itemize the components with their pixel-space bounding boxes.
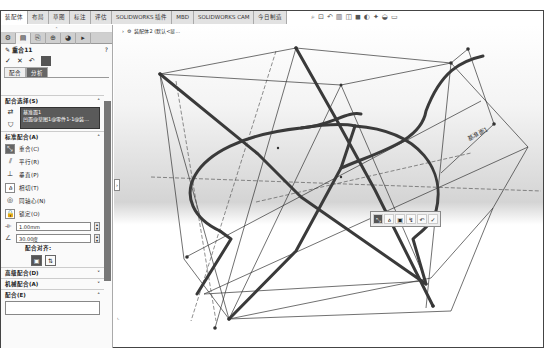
chevron-up-icon: ˄ — [97, 134, 100, 140]
mates-header[interactable]: 配合(E)˄ — [1, 289, 104, 300]
tab-layout[interactable]: 布局 — [28, 11, 49, 24]
tab-cam[interactable]: SOLIDWORKS CAM — [194, 11, 255, 24]
distance-icon: ⟛ — [5, 222, 13, 230]
view-orientation-icon[interactable]: ◫ — [345, 13, 352, 21]
property-title-row: ✎ 重合11 ? — [1, 44, 112, 55]
multi-mate-icon[interactable]: ⛉ — [5, 120, 16, 130]
undo-button[interactable]: ↶ — [29, 57, 35, 65]
mate-selections-header[interactable]: 配合选择(S)˄ — [1, 95, 104, 106]
context-toolbar: ⤡ ዕ ▣ ↯ ↶ ✓ — [370, 211, 441, 227]
display-style-icon[interactable]: ◼ — [355, 13, 361, 21]
solidworks-window: 装配体 布局 草图 标注 评估 SOLIDWORKS 插件 MBD SOLIDW… — [0, 10, 544, 348]
panel-scroll-area: 配合选择(S)˄ ⇄ ⛉ 基准面1 凹面@草图1@零件1-1@装... 标准配合… — [1, 95, 104, 348]
mate-alignment-buttons: ▣ ⇅ — [1, 253, 104, 267]
scene-icon[interactable]: ◒ — [382, 13, 388, 21]
ok-button[interactable]: ✓ — [428, 214, 438, 224]
graphics-area[interactable]: › ⚙ 装配体2 (默认<显... — [114, 25, 543, 347]
tab-addins[interactable]: SOLIDWORKS 插件 — [112, 11, 172, 24]
standard-mates-header[interactable]: 标准配合(A)˄ — [1, 131, 104, 142]
selection-filter-icon[interactable]: ⇄ — [5, 107, 16, 117]
mate-parallel[interactable]: ⫽ 平行(R) — [1, 155, 104, 168]
tab-mbd[interactable]: MBD — [172, 11, 194, 24]
angle-icon: ∠ — [5, 234, 13, 242]
perpendicular-icon: ⊥ — [5, 170, 15, 180]
aligned-button[interactable]: ▣ — [31, 255, 42, 266]
distance-input[interactable]: 1.00mm — [16, 222, 91, 231]
mates-list-box[interactable] — [5, 301, 100, 315]
mate-selections-row: ⇄ ⛉ 基准面1 凹面@草图1@零件1-1@装... — [1, 106, 104, 131]
mate-coincident[interactable]: ⤡ 重合(C) — [1, 142, 104, 155]
distance-spinner[interactable]: ▴▾ — [94, 222, 100, 231]
cancel-button[interactable]: ✕ — [17, 57, 23, 65]
plane-label[interactable]: 基准面1 — [466, 125, 489, 142]
manager-tabs: ⚙ ▤ ⎘ ⊕ ◕ ▸ — [1, 33, 112, 44]
concentric-icon: ◎ — [5, 196, 15, 206]
property-manager-tab[interactable]: ▤ — [16, 33, 31, 44]
command-manager-tabs: 装配体 布局 草图 标注 评估 SOLIDWORKS 插件 MBD SOLIDW… — [1, 11, 287, 24]
mate-alignment-label: 配合对齐: — [1, 244, 104, 253]
heads-up-view-toolbar: ⌕ ⊡ ↶ ▥ ◫ ◼ ◐ ✦ ◒ ▭ — [311, 13, 398, 21]
mate-perpendicular[interactable]: ⊥ 垂直(P) — [1, 168, 104, 181]
angle-spinner[interactable]: ▴▾ — [94, 234, 100, 243]
distance-row: ⟛ 1.00mm ▴▾ — [1, 220, 104, 232]
tab-assembly[interactable]: 装配体 — [1, 11, 28, 24]
lock-icon: 🔒 — [5, 209, 15, 219]
more-tabs-arrow[interactable]: ▸ — [76, 33, 91, 44]
feature-manager-tab[interactable]: ⚙ — [1, 33, 16, 44]
flip-alignment-button[interactable]: ↯ — [406, 214, 416, 224]
tab-manufacturing[interactable]: 今日制造 — [254, 11, 287, 24]
collapse-toggle[interactable]: ˄ — [1, 25, 112, 33]
angle-row: ∠ 30.00度 ▴▾ — [1, 232, 104, 244]
selection-item[interactable]: 凹面@草图1@零件1-1@装... — [23, 116, 97, 122]
undo-button[interactable]: ↶ — [417, 214, 427, 224]
action-buttons: ✓ ✕ ↶ — [1, 55, 112, 66]
mate-concentric[interactable]: ◎ 同轴心(N) — [1, 194, 104, 207]
section-view-icon[interactable]: ▥ — [336, 13, 343, 21]
mate-lock[interactable]: 🔒 锁定(O) — [1, 207, 104, 220]
entities-to-mate-list[interactable]: 基准面1 凹面@草图1@零件1-1@装... — [20, 107, 100, 129]
advanced-mates-header[interactable]: 高级配合(D)˅ — [1, 267, 104, 278]
reference-triad-icon: ⌞ — [117, 314, 119, 320]
mechanical-mates-header[interactable]: 机械配合(A)˅ — [1, 278, 104, 289]
property-title: 重合11 — [12, 45, 32, 54]
tab-evaluate[interactable]: 评估 — [91, 11, 112, 24]
tab-mates[interactable]: 配合 — [4, 67, 26, 77]
pin-icon[interactable] — [41, 56, 51, 66]
angle-input[interactable]: 30.00度 — [16, 234, 91, 243]
lock-button[interactable]: ▣ — [395, 214, 405, 224]
hide-show-icon[interactable]: ◐ — [364, 13, 370, 21]
selection-item[interactable]: 基准面1 — [23, 109, 97, 115]
help-icon[interactable]: ? — [105, 46, 108, 53]
mate-tangent[interactable]: ዕ 相切(T) — [1, 181, 104, 194]
panel-flyout-handle[interactable]: › — [114, 179, 120, 191]
coincident-button[interactable]: ⤡ — [373, 214, 383, 224]
configuration-manager-tab[interactable]: ⎘ — [31, 33, 46, 44]
sketch-geometry[interactable]: 基准面1 — [114, 25, 543, 347]
parallel-icon: ⫽ — [5, 157, 15, 167]
display-manager-tab[interactable]: ◕ — [61, 33, 76, 44]
tangent-icon: ዕ — [5, 183, 15, 193]
previous-view-icon[interactable]: ↶ — [327, 13, 333, 21]
mate-sub-tabs: 配合 分析 — [4, 67, 109, 78]
tab-analysis[interactable]: 分析 — [26, 67, 48, 77]
search-zoom-icon[interactable]: ⌕ — [311, 13, 315, 21]
chevron-up-icon: ˄ — [97, 292, 100, 298]
mate-icon: ✎ — [5, 46, 12, 53]
dimxpert-manager-tab[interactable]: ⊕ — [46, 33, 61, 44]
tangent-button[interactable]: ዕ — [384, 214, 394, 224]
appearance-icon[interactable]: ✦ — [373, 13, 379, 21]
coincident-icon: ⤡ — [5, 144, 15, 154]
tab-sketch[interactable]: 草图 — [49, 11, 70, 24]
ok-button[interactable]: ✓ — [5, 57, 11, 65]
tab-markup[interactable]: 标注 — [70, 11, 91, 24]
display-settings-icon[interactable]: ▭ — [391, 13, 398, 21]
zoom-area-icon[interactable]: ⊡ — [318, 13, 324, 21]
chevron-down-icon: ˅ — [97, 281, 100, 287]
anti-aligned-button[interactable]: ⇅ — [45, 255, 56, 266]
chevron-up-icon: ˄ — [97, 98, 100, 104]
property-manager-panel: ˄ ⚙ ▤ ⎘ ⊕ ◕ ▸ ✎ 重合11 ? ✓ ✕ ↶ 配合 分析 配合选择(… — [1, 25, 113, 348]
chevron-down-icon: ˅ — [97, 270, 100, 276]
panel-scrollbar[interactable] — [104, 101, 111, 281]
